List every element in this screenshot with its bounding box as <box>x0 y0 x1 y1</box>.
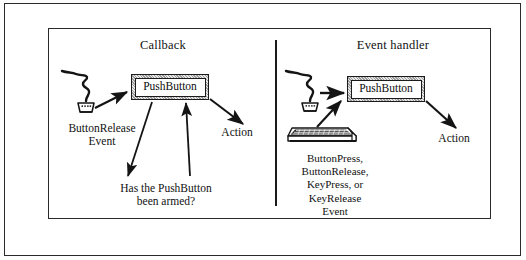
arrow-mouse-to-pushbutton <box>95 92 127 108</box>
keyboard-icon <box>288 128 356 141</box>
arrow-question-to-pushbutton <box>186 103 190 176</box>
mouse-icon <box>286 71 318 111</box>
figure-canvas: Callback Event handler PushButton PushBu… <box>0 0 526 260</box>
arrow-pushbutton-to-action-left <box>210 99 243 124</box>
diagram-vectors <box>0 0 526 260</box>
arrow-keyboard-to-pushbutton <box>317 101 341 127</box>
arrow-pushbutton-to-action-right <box>426 101 456 128</box>
arrow-pushbutton-to-question <box>128 102 152 176</box>
mouse-icon <box>62 71 94 112</box>
